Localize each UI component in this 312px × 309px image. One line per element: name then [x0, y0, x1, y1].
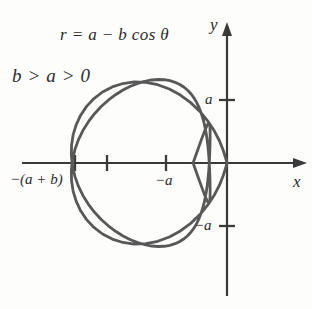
canvas-background	[0, 0, 312, 309]
polar-curve-figure: r = a − b cos θ b > a > 0 y x −(a + b) −…	[0, 0, 312, 309]
y-tick-label-neg-a: −a	[194, 218, 212, 233]
x-axis-label: x	[293, 173, 301, 190]
condition-label: b > a > 0	[12, 66, 91, 85]
x-tick-label-neg-a: −a	[155, 173, 173, 188]
y-axis-label: y	[210, 16, 218, 33]
x-tick-label-neg-a-plus-b: −(a + b)	[10, 172, 63, 187]
limacon-plot-canvas	[0, 0, 312, 309]
y-tick-label-a: a	[205, 92, 213, 107]
equation-label: r = a − b cos θ	[60, 26, 169, 43]
limacon-render	[0, 0, 312, 309]
